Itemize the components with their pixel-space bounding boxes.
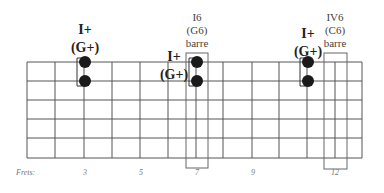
barre-label-2-alt: (C6) bbox=[318, 25, 352, 36]
fret-marker-5: 5 bbox=[139, 168, 143, 177]
frets-label: Frets: bbox=[16, 168, 35, 177]
fret-marker-7: 7 bbox=[195, 168, 199, 177]
barre-label-1-name: I6 bbox=[182, 12, 212, 23]
chord-label-2-alt: (G+) bbox=[156, 68, 192, 82]
barre-label-2-name: IV6 bbox=[318, 12, 352, 23]
chord-label-2-name: I+ bbox=[161, 50, 187, 64]
barre-label-1-type: barre bbox=[178, 38, 216, 49]
chord-label-1-name: I+ bbox=[70, 23, 100, 37]
fret-marker-3: 3 bbox=[83, 168, 87, 177]
barre-label-1-alt: (G6) bbox=[180, 25, 214, 36]
barre-label-2-type: barre bbox=[316, 38, 354, 49]
chord-label-1-alt: (G+) bbox=[66, 41, 104, 55]
fret-marker-9: 9 bbox=[251, 168, 255, 177]
fret-marker-12: 12 bbox=[331, 168, 339, 177]
